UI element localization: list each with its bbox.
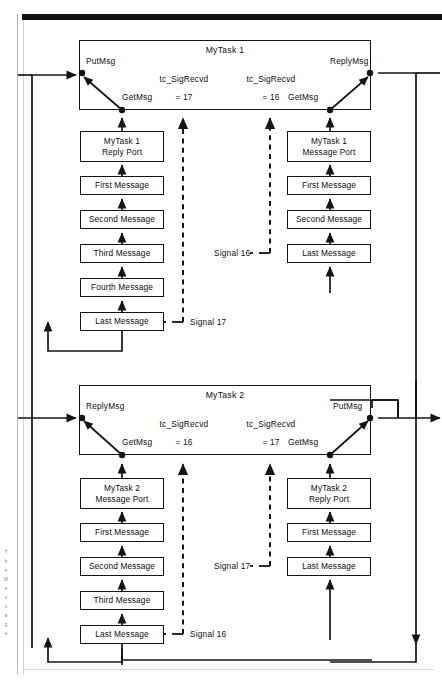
- queue-head-line2: Reply Port: [102, 147, 142, 157]
- queue-head-line1: MyTask 1: [303, 136, 356, 146]
- message-label: Last Message: [302, 248, 355, 258]
- message-label: Fourth Message: [91, 282, 153, 292]
- diagram-page: T h e M e s s a g e: [0, 0, 442, 686]
- signal-label-task1-16: Signal 16: [214, 248, 250, 258]
- message-label: Last Message: [302, 561, 355, 571]
- message-label: Third Message: [94, 248, 151, 258]
- wire-outer-left-to-task1-putmsg: [32, 75, 76, 648]
- list-item-last[interactable]: Last Message: [80, 312, 164, 331]
- task2-sigrecvd-17-value: = 17: [235, 437, 307, 448]
- task2-title: MyTask 2: [79, 390, 371, 400]
- task2-port-putmsg: PutMsg: [333, 401, 362, 411]
- task2-sigrecvd-16-name: tc_SigRecvd: [148, 419, 220, 430]
- task2-sigrecvd-16-value: = 16: [148, 437, 220, 448]
- message-label: First Message: [302, 527, 356, 537]
- task2-sigrecvd-17-name: tc_SigRecvd: [235, 419, 307, 430]
- queue-head-line2: Message Port: [303, 147, 356, 157]
- task1-sigrecvd-17-name: tc_SigRecvd: [148, 74, 220, 85]
- queue-head-task2-message[interactable]: MyTask 2 Message Port: [80, 478, 164, 509]
- queue-head-line2: Message Port: [96, 494, 149, 504]
- signal-label-task1-17: Signal 17: [190, 317, 226, 327]
- message-label: First Message: [95, 180, 149, 190]
- message-label: Second Message: [296, 214, 362, 224]
- task2-port-replymsg: ReplyMsg: [86, 401, 125, 411]
- list-item[interactable]: Second Message: [80, 557, 164, 576]
- list-item[interactable]: Third Message: [80, 244, 164, 263]
- list-item-last[interactable]: Last Message: [287, 557, 371, 576]
- list-item[interactable]: Second Message: [287, 210, 371, 229]
- task1-port-putmsg: PutMsg: [86, 56, 115, 66]
- message-label: First Message: [95, 527, 149, 537]
- task1-port-replymsg: ReplyMsg: [330, 56, 369, 66]
- list-item[interactable]: First Message: [80, 523, 164, 542]
- list-item[interactable]: Fourth Message: [80, 278, 164, 297]
- task1-sigrecvd-16-name: tc_SigRecvd: [235, 74, 307, 85]
- task1-sigrecvd-17-value: = 17: [148, 92, 220, 103]
- message-label: First Message: [302, 180, 356, 190]
- list-item[interactable]: First Message: [287, 176, 371, 195]
- queue-head-task1-reply[interactable]: MyTask 1 Reply Port: [80, 131, 164, 162]
- message-label: Second Message: [89, 561, 155, 571]
- message-label: Last Message: [95, 629, 148, 639]
- list-item[interactable]: Second Message: [80, 210, 164, 229]
- task1-sigrecvd-16-value: = 16: [235, 92, 307, 103]
- queue-head-line1: MyTask 2: [309, 483, 349, 493]
- list-item[interactable]: First Message: [287, 523, 371, 542]
- signal-label-task2-17: Signal 17: [214, 561, 250, 571]
- queue-head-line2: Reply Port: [309, 494, 349, 504]
- list-item[interactable]: Third Message: [80, 591, 164, 610]
- queue-head-line1: MyTask 2: [96, 483, 149, 493]
- list-item[interactable]: First Message: [80, 176, 164, 195]
- list-item-last[interactable]: Last Message: [80, 625, 164, 644]
- queue-head-line1: MyTask 1: [102, 136, 142, 146]
- task1-title: MyTask 1: [79, 45, 371, 55]
- list-item-last[interactable]: Last Message: [287, 244, 371, 263]
- queue-head-task1-message[interactable]: MyTask 1 Message Port: [287, 131, 371, 162]
- message-label: Last Message: [95, 316, 148, 326]
- signal-label-task2-16: Signal 16: [190, 629, 226, 639]
- queue-head-task2-reply[interactable]: MyTask 2 Reply Port: [287, 478, 371, 509]
- message-label: Second Message: [89, 214, 155, 224]
- wire-task1-replymsg-right-down: [378, 73, 416, 644]
- message-label: Third Message: [94, 595, 151, 605]
